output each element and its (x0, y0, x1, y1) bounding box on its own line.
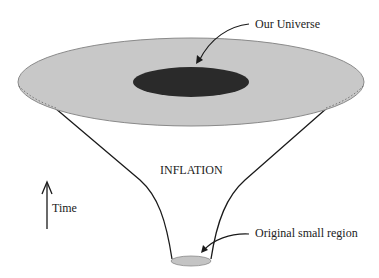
arrowhead-icon (201, 245, 208, 253)
our-universe-region (133, 67, 249, 97)
original-region-label: Original small region (255, 227, 358, 239)
funnel-left-edge (55, 108, 172, 259)
our-universe-label: Our Universe (255, 18, 320, 30)
original-region-pointer-arrow (204, 234, 249, 250)
time-label: Time (52, 202, 77, 214)
inflation-label: INFLATION (160, 164, 223, 176)
original-small-region (171, 256, 211, 266)
